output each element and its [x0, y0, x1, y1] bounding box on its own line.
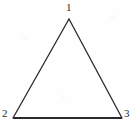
vertex-label-3: 3: [124, 108, 130, 119]
vertex-label-2: 2: [2, 108, 8, 119]
triangle-edge-right-side: [69, 19, 122, 118]
vertex-label-1: 1: [66, 2, 72, 13]
figure-canvas: 1 2 3: [0, 0, 138, 125]
triangle-edge-left-side: [13, 19, 69, 118]
triangle-diagram: [0, 0, 138, 125]
